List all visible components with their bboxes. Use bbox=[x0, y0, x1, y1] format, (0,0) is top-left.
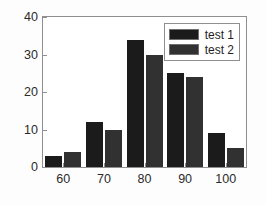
y-axis-tick-mark bbox=[43, 130, 47, 131]
legend-swatch-test-1 bbox=[169, 29, 199, 40]
plot-area: 010203040 60708090100 test 1 test 2 bbox=[42, 16, 247, 168]
bar-70-test-2 bbox=[105, 130, 122, 168]
bar-100-test-2 bbox=[227, 148, 244, 167]
y-axis-tick-label: 20 bbox=[24, 86, 43, 99]
y-axis-tick-mark bbox=[43, 55, 47, 56]
legend-item: test 1 bbox=[169, 27, 234, 42]
bar-60-test-2 bbox=[64, 152, 81, 167]
y-axis-tick-label: 40 bbox=[24, 11, 43, 24]
bar-chart-figure: 010203040 60708090100 test 1 test 2 bbox=[0, 0, 266, 205]
bar-90-test-1 bbox=[167, 73, 184, 167]
x-axis-tick-label: 80 bbox=[138, 167, 152, 186]
x-axis-tick-label: 90 bbox=[178, 167, 192, 186]
x-axis-tick-label: 60 bbox=[56, 167, 70, 186]
y-axis-tick-mark bbox=[43, 167, 47, 168]
bar-90-test-2 bbox=[186, 77, 203, 167]
y-axis-tick-mark bbox=[43, 92, 47, 93]
legend-item: test 2 bbox=[169, 42, 234, 57]
legend-label-test-2: test 2 bbox=[205, 44, 234, 56]
y-axis-tick-mark bbox=[43, 17, 47, 18]
x-axis-tick-label: 70 bbox=[97, 167, 111, 186]
x-axis-tick-label: 100 bbox=[215, 167, 236, 186]
bar-70-test-1 bbox=[86, 122, 103, 167]
legend-label-test-1: test 1 bbox=[205, 29, 234, 41]
y-axis-tick-label: 10 bbox=[24, 123, 43, 136]
legend-swatch-test-2 bbox=[169, 44, 199, 55]
bar-100-test-1 bbox=[208, 133, 225, 167]
bar-80-test-1 bbox=[127, 40, 144, 168]
y-axis-tick-label: 0 bbox=[31, 161, 43, 174]
y-axis-tick-label: 30 bbox=[24, 48, 43, 61]
chart-legend: test 1 test 2 bbox=[164, 23, 240, 61]
bar-60-test-1 bbox=[45, 156, 62, 167]
bar-80-test-2 bbox=[146, 55, 163, 168]
